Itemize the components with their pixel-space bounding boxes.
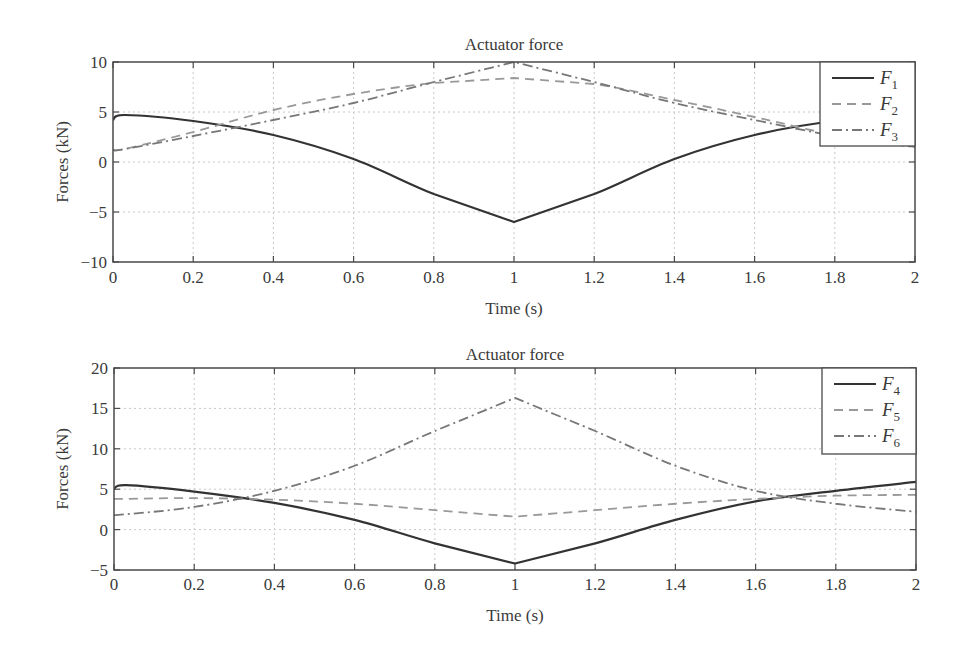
x-tick-label: 0.4 — [263, 268, 285, 287]
y-tick-label: 0 — [100, 521, 109, 540]
grid — [113, 62, 915, 262]
x-tick-label: 0.6 — [344, 575, 365, 594]
x-tick-label: 0 — [110, 575, 119, 594]
chart-title: Actuator force — [466, 345, 565, 364]
x-tick-label: 1.4 — [665, 575, 687, 594]
y-tick-label: 5 — [99, 103, 108, 122]
chart-top-actuator-force-f1-f3: 00.20.40.60.811.21.41.61.82−10−50510Actu… — [53, 35, 919, 318]
x-axis-title: Time (s) — [486, 606, 543, 625]
legend: F1F2F3 — [820, 62, 915, 146]
x-tick-label: 0.4 — [264, 575, 286, 594]
x-tick-label: 1.6 — [744, 268, 765, 287]
x-tick-label: 1.2 — [585, 575, 606, 594]
y-tick-label: −10 — [80, 253, 107, 272]
x-tick-label: 0 — [109, 268, 118, 287]
x-tick-label: 2 — [911, 268, 920, 287]
y-axis-title: Forces (kN) — [53, 121, 72, 203]
y-tick-label: 5 — [100, 480, 109, 499]
x-tick-label: 1 — [510, 268, 519, 287]
x-tick-label: 1 — [511, 575, 520, 594]
y-tick-label: 0 — [99, 153, 108, 172]
chart-bottom-actuator-force-f4-f6: 00.20.40.60.811.21.41.61.82−505101520Act… — [53, 345, 920, 625]
y-tick-label: 10 — [91, 440, 108, 459]
x-tick-label: 1.4 — [664, 268, 686, 287]
x-tick-label: 1.8 — [824, 268, 845, 287]
legend: F4F5F6 — [822, 368, 916, 454]
x-tick-label: 0.8 — [423, 268, 444, 287]
x-tick-label: 0.8 — [424, 575, 445, 594]
y-axis: −505101520 — [90, 359, 916, 580]
y-tick-label: 20 — [91, 359, 108, 378]
x-axis: 00.20.40.60.811.21.41.61.82 — [110, 368, 921, 594]
x-tick-label: 1.6 — [745, 575, 766, 594]
x-tick-label: 2 — [912, 575, 921, 594]
figure: 00.20.40.60.811.21.41.61.82−10−50510Actu… — [0, 0, 967, 655]
y-tick-label: −5 — [90, 561, 108, 580]
x-tick-label: 1.2 — [584, 268, 605, 287]
x-tick-label: 1.8 — [825, 575, 846, 594]
y-tick-label: 15 — [91, 399, 108, 418]
x-tick-label: 0.6 — [343, 268, 364, 287]
y-axis-title: Forces (kN) — [53, 428, 72, 510]
x-tick-label: 0.2 — [184, 575, 205, 594]
x-tick-label: 0.2 — [183, 268, 204, 287]
y-tick-label: −5 — [89, 203, 107, 222]
x-axis-title: Time (s) — [485, 299, 542, 318]
chart-title: Actuator force — [465, 35, 564, 54]
y-tick-label: 10 — [90, 53, 107, 72]
